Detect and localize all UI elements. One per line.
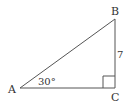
vertex-label-b: B — [111, 5, 119, 18]
side-bc-label: 7 — [117, 49, 123, 60]
vertex-label-c: C — [111, 91, 119, 104]
angle-a-label: 30° — [38, 76, 56, 87]
triangle-abc — [20, 19, 115, 88]
triangle-diagram: B A C 30° 7 — [0, 0, 128, 106]
vertex-label-a: A — [7, 83, 17, 96]
right-angle-marker — [103, 76, 115, 88]
